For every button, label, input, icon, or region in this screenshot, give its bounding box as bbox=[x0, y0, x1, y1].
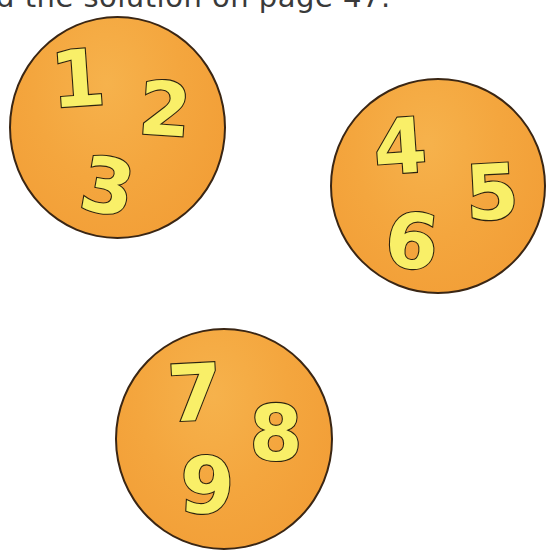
digit-7: 7 bbox=[166, 347, 225, 440]
digit-9: 9 bbox=[177, 440, 236, 533]
digit-2: 2 bbox=[136, 64, 193, 153]
digit-8: 8 bbox=[250, 389, 303, 478]
digit-3: 3 bbox=[74, 138, 142, 235]
digit-4: 4 bbox=[371, 100, 430, 192]
digit-1: 1 bbox=[48, 32, 108, 126]
digit-6: 6 bbox=[381, 194, 443, 288]
digit-5: 5 bbox=[463, 147, 520, 239]
